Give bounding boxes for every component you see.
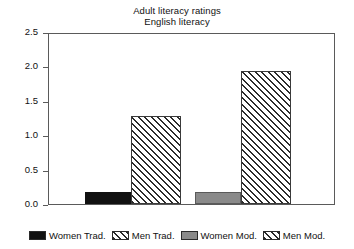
y-axis-tick-label: 1.0 bbox=[25, 129, 38, 140]
legend-item: Women Trad. bbox=[29, 230, 106, 241]
y-axis-tick-label: 2.5 bbox=[25, 26, 38, 37]
chart-figure: Adult literacy ratings English literacy … bbox=[0, 0, 354, 249]
legend-label: Women Trad. bbox=[49, 230, 106, 241]
bar-men-mod bbox=[241, 71, 291, 204]
legend-swatch-icon bbox=[263, 231, 280, 240]
bar-women-trad bbox=[85, 192, 131, 204]
legend-swatch-icon bbox=[181, 231, 198, 240]
chart-title-block: Adult literacy ratings English literacy bbox=[0, 5, 354, 27]
y-axis: 0.00.51.01.52.02.5 bbox=[0, 33, 48, 205]
legend-swatch-icon bbox=[29, 231, 46, 240]
y-axis-tick-label: 0.0 bbox=[25, 198, 38, 209]
legend-item: Men Mod. bbox=[263, 230, 325, 241]
bar-women-mod bbox=[195, 192, 241, 204]
legend-label: Women Mod. bbox=[201, 230, 257, 241]
legend-item: Men Trad. bbox=[112, 230, 175, 241]
legend-label: Men Mod. bbox=[283, 230, 325, 241]
legend-item: Women Mod. bbox=[181, 230, 257, 241]
chart-title: Adult literacy ratings bbox=[0, 5, 354, 16]
bar-men-trad bbox=[131, 116, 181, 204]
chart-legend: Women Trad.Men Trad.Women Mod.Men Mod. bbox=[0, 230, 354, 241]
y-axis-tick-label: 2.0 bbox=[25, 60, 38, 71]
chart-subtitle: English literacy bbox=[0, 16, 354, 27]
bars-layer bbox=[49, 34, 334, 204]
legend-label: Men Trad. bbox=[132, 230, 175, 241]
y-axis-tick-label: 0.5 bbox=[25, 164, 38, 175]
y-axis-tick-label: 1.5 bbox=[25, 95, 38, 106]
legend-swatch-icon bbox=[112, 231, 129, 240]
y-axis-tick-mark bbox=[43, 205, 48, 206]
